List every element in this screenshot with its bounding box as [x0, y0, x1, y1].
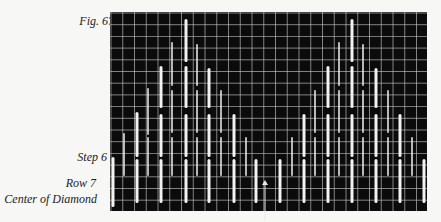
thin-bar	[314, 137, 316, 176]
thick-bar	[185, 19, 188, 62]
thin-bar	[147, 88, 149, 135]
thin-bar	[362, 44, 364, 86]
thick-bar	[185, 114, 188, 157]
thick-bar	[399, 114, 402, 157]
thin-bar	[338, 137, 340, 176]
thin-bar	[220, 137, 222, 176]
thick-bar	[327, 66, 330, 108]
thick-bar	[351, 159, 354, 203]
thick-bar	[208, 114, 211, 157]
thin-bar	[171, 42, 173, 86]
thin-bar	[220, 90, 222, 133]
grid-background	[110, 12, 427, 211]
thick-bar	[351, 66, 354, 108]
thick-bar	[160, 66, 163, 108]
thin-bar	[387, 137, 389, 176]
thin-bar	[196, 44, 198, 86]
thick-bar	[112, 157, 115, 207]
thick-bar	[351, 114, 354, 157]
thin-bar	[362, 137, 364, 176]
thick-bar	[303, 159, 306, 203]
thin-bar	[362, 90, 364, 133]
thick-bar	[185, 159, 188, 203]
thick-bar	[208, 68, 211, 108]
thin-bar	[123, 133, 125, 176]
thick-bar	[351, 19, 354, 62]
thick-bar	[327, 159, 330, 203]
thick-bar	[160, 159, 163, 203]
thick-bar	[208, 159, 211, 203]
thick-bar	[375, 159, 378, 203]
thick-bar	[327, 114, 330, 157]
thin-bar	[171, 137, 173, 176]
thick-bar	[185, 66, 188, 108]
thick-bar	[233, 114, 236, 157]
thin-bar	[314, 90, 316, 133]
thin-bar	[171, 90, 173, 133]
thick-bar	[423, 159, 426, 203]
diamond-pattern-diagram	[0, 0, 441, 222]
thin-bar	[338, 90, 340, 133]
thick-bar	[303, 114, 306, 157]
thick-bar	[136, 159, 139, 203]
thin-bar	[196, 90, 198, 133]
thick-bar	[233, 159, 236, 203]
thick-bar	[375, 114, 378, 157]
thick-bar	[255, 159, 258, 203]
thin-bar	[147, 137, 149, 176]
thin-bar	[291, 137, 293, 176]
thin-bar	[338, 42, 340, 86]
thick-bar	[279, 159, 282, 203]
thin-bar	[411, 137, 413, 176]
thick-bar	[160, 114, 163, 157]
thick-bar	[375, 68, 378, 108]
thick-bar	[136, 112, 139, 157]
thin-bar	[387, 90, 389, 133]
thick-bar	[399, 159, 402, 203]
thin-bar	[245, 137, 247, 176]
thin-bar	[196, 137, 198, 176]
